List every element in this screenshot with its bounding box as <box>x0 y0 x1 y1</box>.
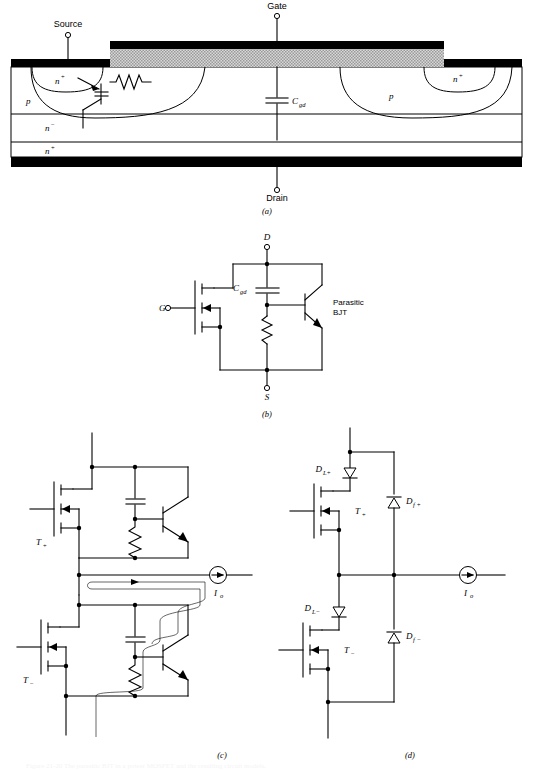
panel-b-annot-line1: Parasitic <box>333 298 364 307</box>
panel-d-upper-device-sub: + <box>362 511 366 518</box>
panel-b-mosfet <box>171 281 222 370</box>
source-terminal-node[interactable] <box>65 32 70 37</box>
gate-metal <box>110 41 444 49</box>
panel-d-io-label: I <box>463 588 468 598</box>
n-plus-left-sup: + <box>61 73 65 80</box>
gate-label: Gate <box>267 1 287 11</box>
panel-d-df-minus-sub: f − <box>413 636 421 643</box>
panel-b-resistor <box>262 305 272 370</box>
panel-d-diode-df-plus <box>387 452 401 575</box>
n-plus-region-right <box>424 67 495 92</box>
panel-d-dl-plus-sub: L+ <box>322 469 331 476</box>
gate-oxide <box>110 48 444 67</box>
panel-b-source-terminal[interactable] <box>264 385 269 390</box>
panel-b-gate-terminal[interactable] <box>165 305 170 310</box>
drain-label: Drain <box>266 193 288 203</box>
panel-a: Source Gate Drain C gd <box>11 1 522 216</box>
panel-b-annot-line2: BJT <box>333 308 347 317</box>
panel-c: T + I o <box>17 433 252 760</box>
drain-terminal-node[interactable] <box>274 187 279 192</box>
panel-b-cgd-sub: gd <box>240 288 247 295</box>
panel-d-letter: (d) <box>405 750 415 760</box>
panel-d-dl-minus-label: D <box>304 603 312 613</box>
panel-c-io-label: I <box>213 588 218 598</box>
n-plus-right-label: n <box>453 74 458 84</box>
panel-d-dl-minus-sub: L− <box>311 608 320 615</box>
panel-c-lower-device-label: T <box>23 675 29 685</box>
gate-terminal-node[interactable] <box>274 13 279 18</box>
panel-d-df-minus-label: D <box>405 631 413 641</box>
panel-c-current-source <box>210 567 253 584</box>
p-well-right <box>340 67 512 118</box>
drain-metal <box>11 157 522 167</box>
panel-b-bjt <box>305 264 322 370</box>
panel-d: D L+ T + D f + <box>279 428 505 760</box>
panel-c-upper-cell <box>30 465 188 560</box>
panel-b-cgd-label: C <box>233 283 240 293</box>
n-plus-substrate-label: n <box>45 146 50 156</box>
panel-d-df-plus-sub: f + <box>413 501 421 508</box>
parasitic-bjt-overlay-a <box>78 75 151 128</box>
n-plus-left-label: n <box>55 76 60 86</box>
panel-d-df-plus-label: D <box>405 496 413 506</box>
cgd-sub-a: gd <box>299 101 306 108</box>
panel-c-letter: (c) <box>217 750 227 760</box>
figure-container: Source Gate Drain C gd <box>0 0 533 770</box>
figure-caption: Figure 21-20 The parasitic BJT in a powe… <box>26 762 266 770</box>
panel-d-upper-device-label: T <box>355 506 361 516</box>
panel-c-upper-device-sub: + <box>43 542 47 549</box>
panel-b-drain-label: D <box>263 232 271 242</box>
panel-d-diode-df-minus <box>387 575 401 702</box>
panel-c-lower-cell <box>17 595 188 698</box>
panel-b-emitter-arrow <box>313 318 322 328</box>
p-left-label: p <box>25 96 31 106</box>
panel-c-lower-device-sub: − <box>30 680 34 687</box>
panel-b-letter: (b) <box>262 409 272 419</box>
panel-d-diode-dl-plus <box>343 452 357 491</box>
source-metal-right <box>442 59 522 67</box>
panel-b-source-label: S <box>265 392 270 402</box>
panel-c-io-sub: o <box>220 592 224 599</box>
silicon-body <box>11 67 522 157</box>
n-minus-label: n <box>45 123 50 133</box>
n-plus-right-sup: + <box>459 72 463 79</box>
panel-d-current-source <box>460 567 506 584</box>
panel-b-drain-terminal[interactable] <box>264 244 269 249</box>
panel-d-lower-device-label: T <box>344 645 350 655</box>
cgd-label-a: C <box>292 96 299 106</box>
panel-b: D <box>159 232 364 419</box>
panel-b-cgd <box>256 264 279 305</box>
panel-d-diode-dl-minus <box>332 575 346 630</box>
cgd-capacitor-a <box>266 67 288 140</box>
n-minus-sup: − <box>51 121 55 128</box>
panel-a-letter: (a) <box>262 206 272 216</box>
panel-d-lower-device-sub: − <box>351 650 355 657</box>
p-right-label: p <box>388 91 394 101</box>
body-resistance-zigzag <box>110 75 151 89</box>
panel-c-node-dc-minus <box>64 694 68 698</box>
panel-d-lower-mosfet <box>279 623 339 702</box>
panel-d-io-sub: o <box>470 592 474 599</box>
source-label: Source <box>54 19 83 29</box>
n-plus-substrate-sup: + <box>51 144 55 151</box>
panel-b-body-arrow <box>203 304 211 312</box>
panel-d-dl-plus-label: D <box>315 464 323 474</box>
panel-d-upper-mosfet <box>290 484 350 575</box>
figure-svg: Source Gate Drain C gd <box>0 0 533 770</box>
panel-c-upper-device-label: T <box>36 537 42 547</box>
p-well-left <box>31 67 205 118</box>
source-metal-left <box>11 59 111 67</box>
panel-c-current-path <box>88 579 206 589</box>
